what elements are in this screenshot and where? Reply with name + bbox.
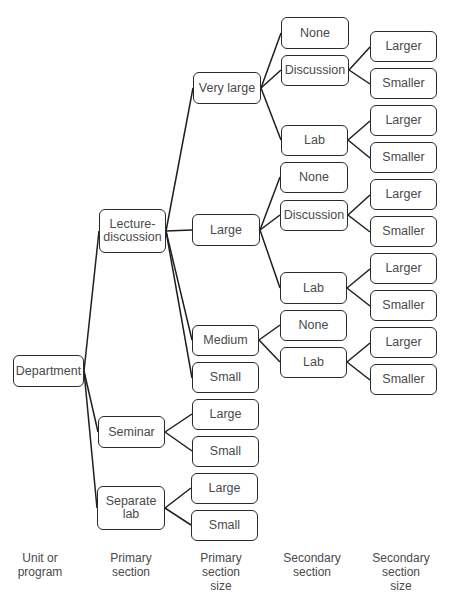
column-label-primary-section: Primary section [86,551,176,579]
node-vl-lab: Lab [281,125,348,156]
node-md-lab-larger: Larger [370,327,437,358]
node-vl-lab-smaller: Smaller [370,142,437,173]
column-label-primary-size: Primary section size [176,551,266,593]
node-lg-lab-larger: Larger [370,253,437,284]
node-md-lab: Lab [280,347,347,378]
node-md-lab-smaller: Smaller [370,364,437,395]
node-vl-disc-larger: Larger [370,31,437,62]
column-label-unit: Unit or program [0,551,85,579]
node-sem-large: Large [192,399,259,430]
node-vl-discussion: Discussion [281,55,349,86]
node-ld-medium: Medium [192,325,259,356]
node-separate-lab: Separate lab [97,486,165,530]
node-vl-none: None [281,17,349,49]
node-lecture-discussion: Lecture- discussion [99,209,166,253]
node-seminar: Seminar [98,416,165,448]
node-lg-none: None [280,162,348,193]
node-lg-lab-smaller: Smaller [370,290,437,321]
node-department: Department [13,355,84,387]
node-lg-lab: Lab [280,272,347,304]
node-sl-large: Large [191,473,258,504]
node-lg-discussion: Discussion [280,200,348,231]
node-ld-small: Small [192,362,259,393]
node-ld-large: Large [192,214,260,246]
node-vl-lab-larger: Larger [370,105,437,136]
node-lg-disc-larger: Larger [370,179,437,210]
node-md-none: None [280,310,347,341]
column-label-secondary-size: Secondary section size [356,551,446,593]
node-vl-disc-smaller: Smaller [370,68,437,99]
column-label-secondary-section: Secondary section [267,551,357,579]
node-sl-small: Small [191,510,258,541]
node-ld-very-large: Very large [193,72,261,104]
node-lg-disc-smaller: Smaller [370,216,437,247]
node-sem-small: Small [192,436,259,467]
